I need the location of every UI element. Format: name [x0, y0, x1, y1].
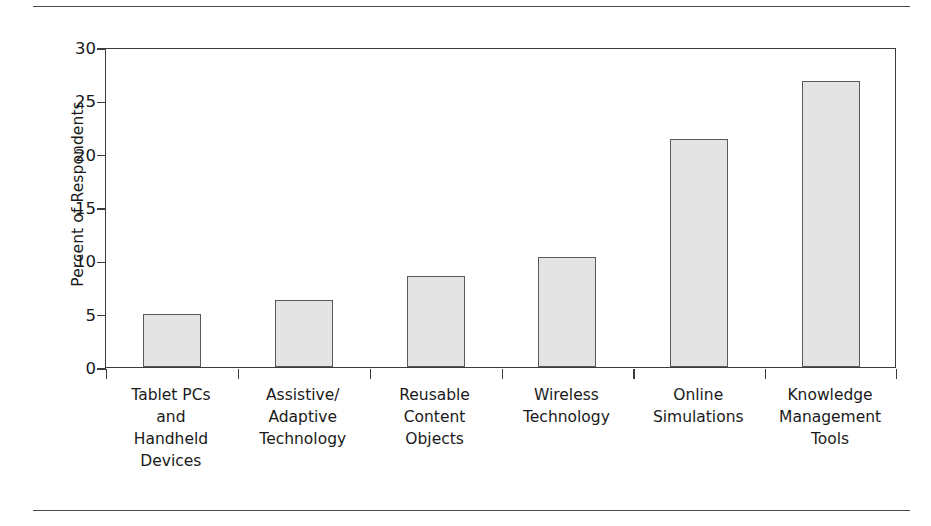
- bar-slot: [502, 49, 634, 367]
- bar[interactable]: [407, 276, 465, 367]
- x-axis-label: Assistive/AdaptiveTechnology: [237, 384, 369, 450]
- bar-series: [106, 49, 895, 367]
- y-tick-mark: [97, 48, 106, 49]
- y-axis-title: Percent of Respondents: [69, 34, 87, 354]
- x-tick-mark: [633, 369, 634, 379]
- y-tick-mark: [97, 208, 106, 209]
- y-tick-mark: [97, 368, 106, 369]
- x-axis-label-line: Content: [369, 406, 501, 428]
- x-axis-label-line: Online: [632, 384, 764, 406]
- y-tick-label: 10: [50, 254, 96, 271]
- bar-slot: [106, 49, 238, 367]
- x-tick-mark: [106, 369, 107, 379]
- y-tick-label: 0: [50, 361, 96, 378]
- x-axis-label-line: Tablet PCs: [105, 384, 237, 406]
- x-axis-label-line: Tools: [764, 428, 896, 450]
- x-axis-label-line: Reusable: [369, 384, 501, 406]
- x-axis-label-line: Objects: [369, 428, 501, 450]
- x-tick-mark: [238, 369, 239, 379]
- x-axis-label-line: Assistive/: [237, 384, 369, 406]
- bar[interactable]: [670, 139, 728, 367]
- x-axis-label: ReusableContentObjects: [369, 384, 501, 450]
- bar-slot: [765, 49, 897, 367]
- x-axis-label: Tablet PCsandHandheldDevices: [105, 384, 237, 472]
- x-axis-label: WirelessTechnology: [501, 384, 633, 428]
- bar-slot: [370, 49, 502, 367]
- bar[interactable]: [275, 300, 333, 367]
- x-axis-label-line: Handheld: [105, 428, 237, 450]
- y-tick-label: 20: [50, 148, 96, 165]
- figure-container: Percent of Respondents 051015202530 Tabl…: [0, 0, 931, 526]
- plot-area: Percent of Respondents 051015202530: [105, 48, 896, 368]
- y-tick-label: 30: [50, 41, 96, 58]
- y-tick-mark: [97, 315, 106, 316]
- x-axis-label-line: Wireless: [501, 384, 633, 406]
- x-axis-label-line: Simulations: [632, 406, 764, 428]
- x-axis-label: OnlineSimulations: [632, 384, 764, 428]
- bar-slot: [238, 49, 370, 367]
- y-tick-mark: [97, 102, 106, 103]
- y-tick-label: 15: [50, 201, 96, 218]
- y-tick-label: 25: [50, 94, 96, 111]
- x-axis-label: KnowledgeManagementTools: [764, 384, 896, 450]
- bar-slot: [633, 49, 765, 367]
- figure-bottom-rule: [33, 510, 910, 511]
- x-axis-label-line: Technology: [501, 406, 633, 428]
- bar[interactable]: [802, 81, 860, 367]
- x-tick-mark: [502, 369, 503, 379]
- x-tick-mark: [765, 369, 766, 379]
- x-axis-label-line: Management: [764, 406, 896, 428]
- y-tick-mark: [97, 262, 106, 263]
- y-tick-mark: [97, 155, 106, 156]
- x-axis-label-line: Devices: [105, 450, 237, 472]
- x-axis-label-line: Adaptive: [237, 406, 369, 428]
- figure-top-rule: [33, 6, 910, 7]
- bar[interactable]: [538, 257, 596, 367]
- x-axis-label-line: Technology: [237, 428, 369, 450]
- x-axis-labels: Tablet PCsandHandheldDevicesAssistive/Ad…: [105, 384, 896, 504]
- y-tick-label: 5: [50, 308, 96, 325]
- x-tick-mark: [370, 369, 371, 379]
- x-axis-label-line: Knowledge: [764, 384, 896, 406]
- x-axis-label-line: and: [105, 406, 237, 428]
- bar[interactable]: [143, 314, 201, 367]
- x-tick-mark: [896, 369, 897, 379]
